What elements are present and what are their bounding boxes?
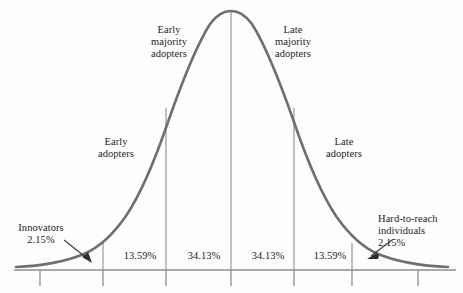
percent-label-late-majority: 34.13% (238, 250, 298, 262)
label-hard-to-reach-individuals: Hard-to-reach individuals 2.15% (378, 213, 461, 250)
label-late-majority-adopters: Late majority adopters (262, 24, 324, 61)
label-early-majority-adopters: Early majority adopters (138, 24, 200, 61)
label-innovators: Innovators 2.15% (2, 222, 80, 246)
percent-label-early-majority: 34.13% (174, 250, 234, 262)
label-late-adopters: Late adopters (316, 136, 372, 160)
percent-label-early-adopters: 13.59% (110, 250, 170, 262)
percent-label-late-adopters: 13.59% (300, 250, 360, 262)
diffusion-of-innovation-curve: Early majority adopters Late majority ad… (0, 0, 463, 293)
label-early-adopters: Early adopters (88, 136, 144, 160)
